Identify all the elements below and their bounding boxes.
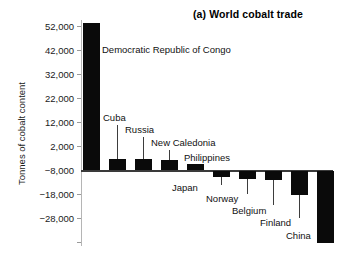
y-tick-label-2000: 2,000 [22, 141, 74, 152]
y-tick-label-52000: 52,000 [22, 21, 74, 32]
leader-line-cuba [117, 125, 118, 159]
label-finland: Finland [260, 217, 291, 228]
bar-finland [291, 171, 308, 195]
y-tick-label-neg28000: −28,000 [22, 213, 74, 224]
chart-title: (a) World cobalt trade [193, 8, 303, 20]
bar-philippines [187, 164, 204, 170]
y-tick-label-42000: 42,000 [22, 45, 74, 56]
label-philippines: Philippines [184, 152, 230, 163]
bar-cuba [109, 159, 126, 170]
bar-democratic-republic-of-congo [83, 23, 100, 170]
y-tick-label-22000: 22,000 [22, 93, 74, 104]
leader-line-new-caledonia [169, 150, 170, 160]
label-new-caledonia: New Caledonia [151, 137, 215, 148]
label-norway: Norway [206, 193, 238, 204]
label-japan: Japan [172, 182, 198, 193]
label-cuba: Cuba [103, 112, 126, 123]
y-tick-label-neg18000: −18,000 [22, 189, 74, 200]
leader-line-japan [221, 177, 222, 185]
leader-line-finland [299, 195, 300, 218]
y-tick-label-neg8000: −8,000 [22, 165, 74, 176]
bar-china [317, 171, 334, 243]
label-china: China [286, 230, 311, 241]
label-democratic-republic-of-congo: Democratic Republic of Congo [102, 44, 231, 55]
y-axis-spine [81, 20, 82, 246]
leader-line-norway [247, 179, 248, 194]
label-belgium: Belgium [232, 205, 266, 216]
bar-norway [239, 171, 256, 179]
bar-russia [135, 159, 152, 170]
y-tick-label-32000: 32,000 [22, 69, 74, 80]
leader-line-russia [143, 137, 144, 159]
label-russia: Russia [125, 124, 154, 135]
leader-line-belgium [273, 180, 274, 205]
chart-figure: (a) World cobalt trade Tonnes of cobalt … [0, 0, 339, 276]
bar-new-caledonia [161, 160, 178, 170]
bar-belgium [265, 171, 282, 180]
y-tick-label-12000: 12,000 [22, 117, 74, 128]
